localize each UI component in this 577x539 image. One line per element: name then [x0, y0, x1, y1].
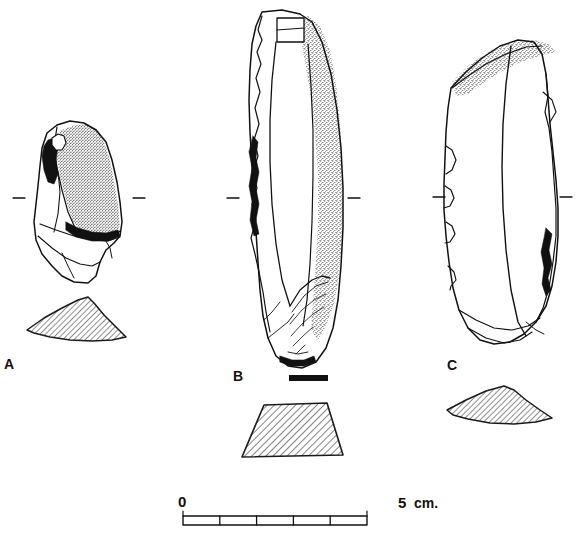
- crushing-b-left: [249, 136, 259, 236]
- figure-label-b: B: [233, 369, 243, 383]
- figure-c-section: [447, 386, 552, 424]
- scale-bar-graphic: [183, 511, 367, 525]
- ripple-b-6: [268, 314, 294, 338]
- solid-bar-marker-b: [289, 375, 328, 381]
- section-outline-a: [27, 297, 126, 341]
- plate-drawing: [0, 0, 577, 539]
- scale-bar-frame: [183, 516, 367, 525]
- figure-b-artifact: [227, 10, 360, 381]
- section-outline-b: [242, 403, 343, 457]
- section-outline-c: [447, 386, 552, 424]
- ridge-a-4: [62, 253, 74, 278]
- medial-ridge-b: [270, 42, 290, 306]
- figure-label-c: C: [447, 358, 457, 372]
- scale-unit-label: cm.: [414, 496, 438, 510]
- figure-label-a: A: [4, 357, 14, 371]
- scar-a-upper: [52, 134, 66, 150]
- figure-a-section: [27, 297, 126, 341]
- figure-b-section: [242, 403, 343, 457]
- cortex-stipple-c: [452, 40, 556, 96]
- scale-end-label: 5: [398, 495, 406, 510]
- crushing-c-right: [541, 228, 552, 296]
- cortex-stipple-b: [298, 16, 343, 340]
- distal-line-c-1: [459, 310, 540, 330]
- medial-ridge-c: [502, 46, 526, 336]
- figure-c-artifact: [433, 40, 572, 344]
- lithic-artifact-plate: A B C 0 5 cm.: [0, 0, 577, 539]
- figure-a-artifact: [13, 121, 145, 283]
- ripple-b-4: [293, 327, 313, 346]
- notch-c-1: [446, 146, 456, 174]
- scale-start-label: 0: [178, 494, 186, 509]
